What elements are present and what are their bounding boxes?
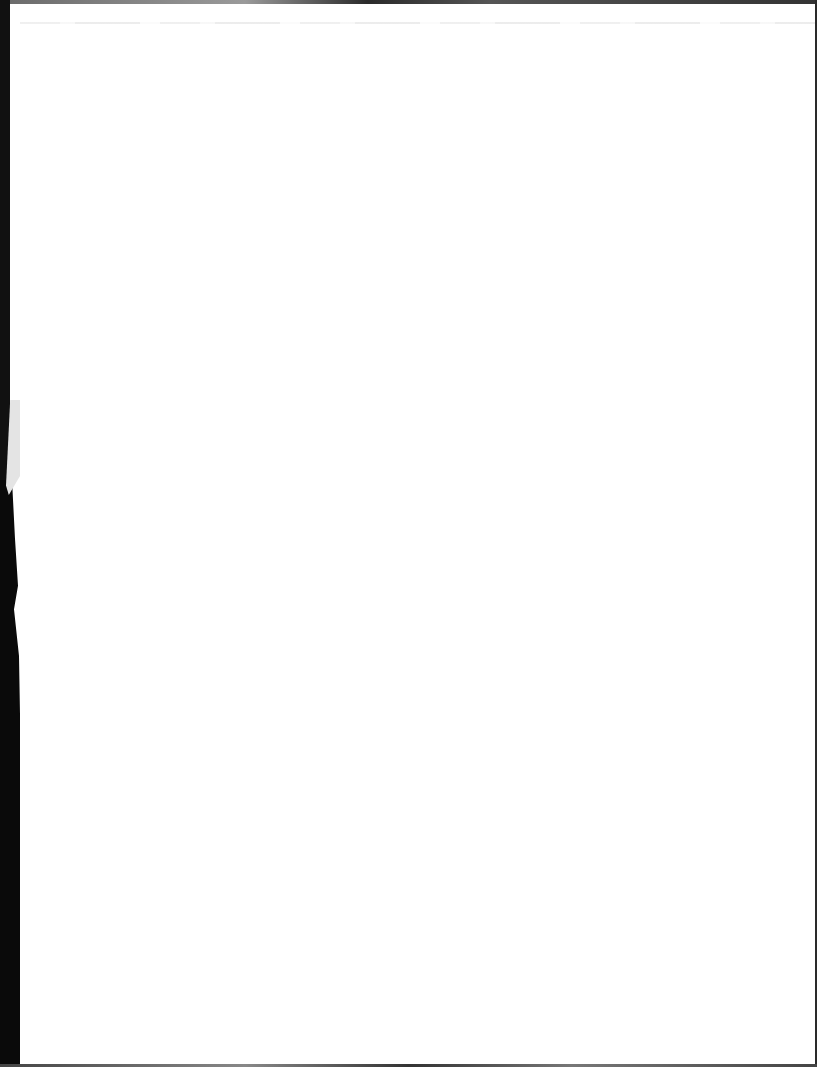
- blank-page-body: [40, 60, 777, 1027]
- bleed-through-text-line: [20, 22, 815, 24]
- scan-left-border-dark: [0, 480, 20, 1067]
- scan-top-edge: [0, 0, 817, 4]
